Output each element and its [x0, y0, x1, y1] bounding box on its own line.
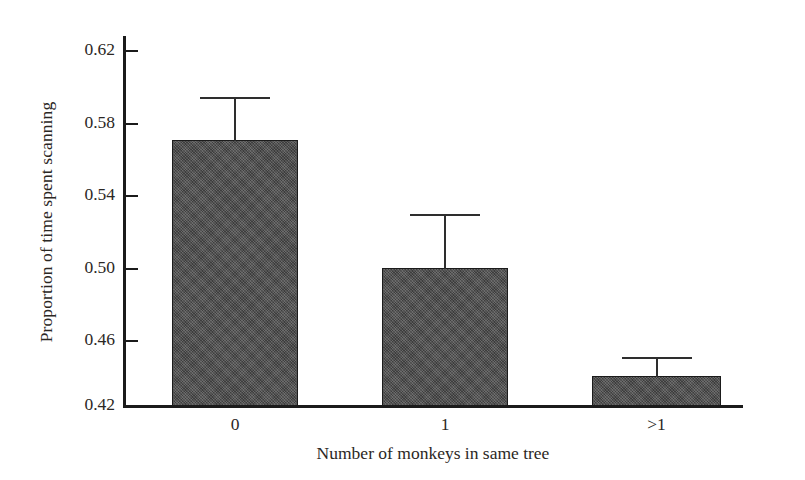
bar-category-1 — [382, 268, 508, 406]
x-tick-label-0: 0 — [172, 414, 298, 435]
y-tick-0 — [126, 50, 138, 52]
y-tick-2 — [126, 195, 138, 197]
y-tick-1 — [126, 123, 138, 125]
bar-category-2 — [592, 376, 721, 406]
x-axis-label: Number of monkeys in same tree — [123, 443, 743, 464]
plot-area — [123, 36, 743, 408]
error-bar-cap-1 — [410, 214, 480, 216]
error-bar-stem-0 — [234, 97, 236, 141]
bar-chart-figure: Proportion of time spent scanning 0.62 0… — [0, 0, 805, 480]
error-bar-stem-2 — [656, 357, 658, 377]
y-tick-label-2: 0.54 — [65, 184, 115, 205]
error-bar-stem-1 — [444, 214, 446, 269]
x-tick-label-1: 1 — [382, 414, 508, 435]
y-tick-4 — [126, 340, 138, 342]
y-tick-label-4: 0.46 — [65, 329, 115, 350]
y-tick-label-1: 0.58 — [65, 112, 115, 133]
y-tick-label-5: 0.42 — [65, 394, 115, 415]
y-tick-label-3: 0.50 — [65, 257, 115, 278]
y-tick-3 — [126, 268, 138, 270]
y-axis-spine — [123, 36, 126, 408]
y-axis-label: Proportion of time spent scanning — [33, 32, 59, 412]
error-bar-cap-2 — [622, 357, 692, 359]
y-tick-label-0: 0.62 — [65, 39, 115, 60]
x-tick-label-2: >1 — [592, 414, 721, 435]
bar-category-0 — [172, 140, 298, 406]
error-bar-cap-0 — [200, 97, 270, 99]
